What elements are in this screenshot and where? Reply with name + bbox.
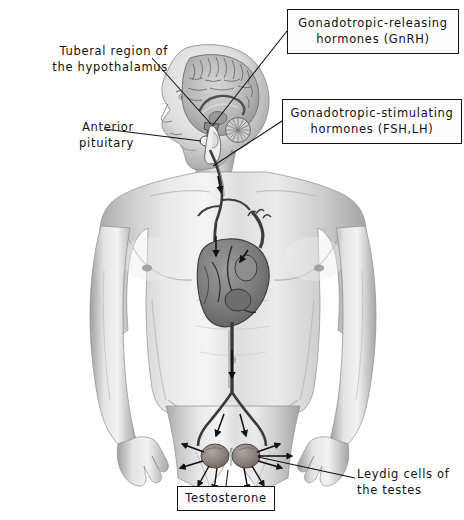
subclavian-right [222, 199, 250, 210]
subclavian-left [198, 206, 221, 216]
testosterone-release-arrows [180, 444, 292, 490]
flow-arrows [216, 176, 248, 436]
nipple-left [142, 264, 152, 271]
cerebellum [226, 118, 251, 143]
eyebrow [176, 90, 189, 92]
label-leydig-cells: Leydig cells of the testes [357, 467, 461, 498]
testes [201, 444, 260, 468]
carotid-vessel [210, 150, 222, 222]
label-anterior-pituitary: Anterior pituitary [44, 120, 134, 151]
arrow-neck-down [218, 176, 221, 192]
arm-left [90, 226, 168, 486]
leader-fsh-lh [213, 121, 282, 166]
testis-right [232, 444, 260, 468]
gyri [187, 57, 252, 108]
superior-vena-cava [215, 222, 217, 262]
callout-gnrh: Gonadotropic-releasing hormones (GnRH) [287, 9, 459, 54]
nipple-right [314, 264, 324, 271]
thalamus [209, 112, 227, 125]
torso [99, 150, 368, 500]
arm-right [298, 226, 376, 486]
arrow-into-heart [240, 250, 248, 262]
label-tuberal-hypothalamus: Tuberal region of the hypothalamus [18, 44, 168, 75]
leader-leydig [258, 457, 355, 478]
infundibulum [207, 130, 208, 137]
ear [212, 109, 222, 121]
aortic-arch [252, 212, 263, 248]
ventricle [225, 289, 251, 311]
hand-right [298, 437, 349, 486]
navel [230, 356, 236, 364]
hpg-axis-figure: Tuberal region of the hypothalamus Anter… [0, 0, 464, 520]
head-sagittal-brain [161, 45, 269, 170]
arrow-to-testis-right [240, 414, 246, 436]
coronary-groove [228, 246, 256, 312]
hand-left [117, 437, 168, 486]
chin [180, 146, 196, 151]
arrow-to-testis-left [216, 414, 224, 436]
callout-fsh-lh: Gonadotropic-stimulating hormones (FSH,L… [282, 99, 462, 144]
callout-testosterone: Testosterone [177, 486, 275, 511]
heart [197, 239, 269, 327]
leader-testosterone [226, 470, 228, 486]
corpus-callosum [200, 96, 244, 114]
right-atrium [235, 255, 257, 281]
aorta-and-iliacs [198, 322, 266, 446]
leader-gnrh [212, 31, 287, 126]
anterior-pituitary [200, 136, 212, 146]
iliac-artery-left [198, 392, 232, 446]
testis-left [201, 444, 229, 468]
posterior-pituitary [206, 136, 212, 143]
hypothalamus-region [204, 122, 219, 132]
pons [212, 132, 218, 148]
nose [161, 104, 172, 122]
brainstem [205, 126, 221, 164]
cerebrum [182, 55, 259, 136]
eye [179, 94, 187, 99]
anatomy-illustration [0, 0, 464, 520]
iliac-artery-right [232, 392, 266, 446]
mouth [170, 133, 182, 135]
vasculature [198, 150, 271, 262]
